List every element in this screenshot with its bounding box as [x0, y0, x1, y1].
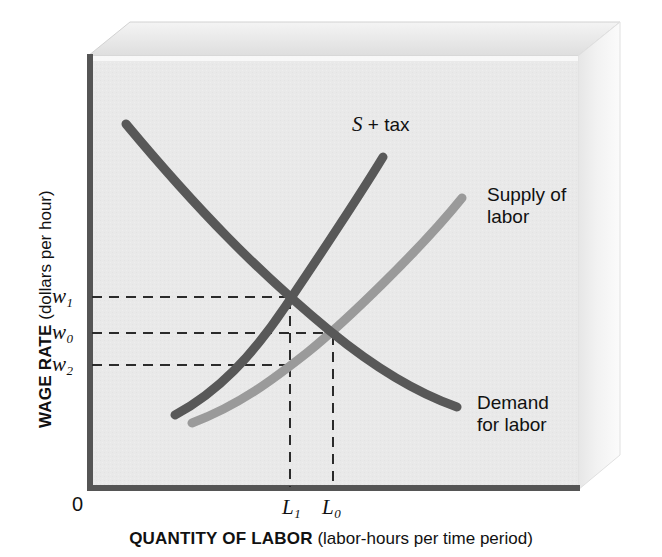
figure-canvas — [0, 0, 662, 557]
demand-label-line-1: Demand — [477, 392, 549, 414]
x-tick-label-L0: L0 — [322, 495, 341, 521]
supply-label-line-1: Supply of — [487, 184, 566, 206]
plus-tax-text: + tax — [363, 114, 410, 135]
y-axis-title-bold: WAGE RATE — [36, 325, 55, 429]
y-axis-title-wrapper: WAGE RATE (dollars per hour) — [0, 0, 46, 500]
y-axis-title-units: (dollars per hour) — [36, 190, 55, 319]
curve-label-demand-for-labor: Demand for labor — [477, 392, 549, 437]
x-axis-title-units: (labor-hours per time period) — [317, 529, 532, 548]
supply-label-line-2: labor — [487, 206, 566, 228]
s-symbol: S — [352, 112, 363, 136]
supply-demand-figure: w1 w0 w2 L1 L0 0 S + tax Supply of labor… — [0, 0, 662, 557]
box-top-face — [88, 22, 620, 56]
x-axis-title: QUANTITY OF LABOR (labor-hours per time … — [0, 529, 662, 549]
x-axis-title-bold: QUANTITY OF LABOR — [129, 529, 312, 548]
origin-label: 0 — [72, 493, 83, 517]
curve-label-s-plus-tax: S + tax — [352, 112, 410, 137]
panel-top-highlight — [88, 56, 578, 61]
demand-label-line-2: for labor — [477, 414, 549, 436]
y-axis-title: WAGE RATE (dollars per hour) — [36, 190, 56, 428]
curve-label-supply-of-labor: Supply of labor — [487, 184, 566, 229]
x-tick-label-L1: L1 — [282, 495, 301, 521]
box-right-face — [578, 22, 620, 490]
